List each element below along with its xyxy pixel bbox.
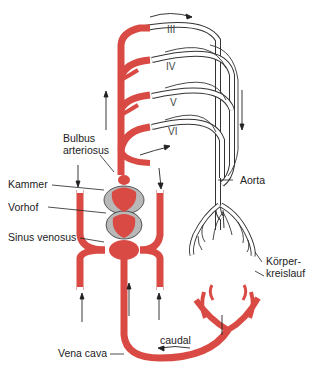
label-koerper: Körper- xyxy=(266,256,301,267)
arch-label-v: V xyxy=(170,97,177,108)
label-sinus-venosus: Sinus venosus xyxy=(8,232,76,243)
label-vorhof: Vorhof xyxy=(8,202,38,213)
arch-label-iv: IV xyxy=(166,61,175,72)
label-bulbus: Bulbus xyxy=(63,133,95,144)
arch-label-iii: III xyxy=(167,24,175,35)
label-kreislauf: kreislauf xyxy=(266,268,305,279)
label-kammer: Kammer xyxy=(8,179,48,190)
label-vena-cava: Vena cava xyxy=(58,348,107,359)
label-caudal: caudal xyxy=(160,335,191,346)
arch-label-vi: VI xyxy=(168,126,177,137)
label-aorta: Aorta xyxy=(240,175,265,186)
aorta-branches-white xyxy=(191,205,253,256)
label-arteriosus: arteriosus xyxy=(63,145,109,156)
